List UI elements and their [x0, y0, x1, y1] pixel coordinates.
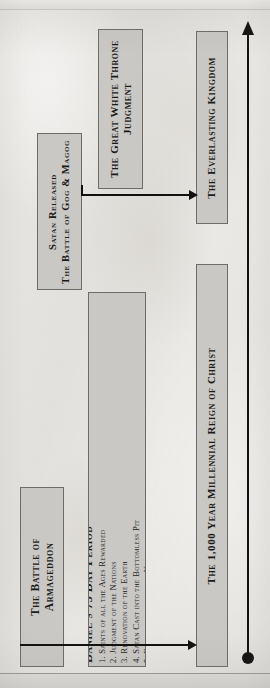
timeline-start-dot-icon — [242, 652, 254, 664]
page-edge-top — [0, 0, 270, 9]
timeline-axis-line — [247, 33, 249, 660]
event-box-satan-released: Satan Released The Battle of Gog & Magog — [37, 133, 82, 290]
event-box-great-white-throne: The Great White Throne Judgment — [98, 29, 143, 189]
event-box-satan-released-text: Satan Released The Battle of Gog & Magog — [47, 139, 73, 283]
page-edge-bottom-rule — [0, 673, 270, 674]
connector-bottom-stub — [20, 644, 22, 646]
great-white-throne-line2: Judgment — [121, 40, 134, 178]
era-bar-everlasting-kingdom-text: The Everlasting Kingdom — [205, 57, 218, 199]
everlasting-label: The Everlasting Kingdom — [205, 57, 218, 199]
connector-middle-stub — [81, 185, 83, 195]
daniel-heading: Daniel's 75 Day Period — [88, 525, 96, 662]
daniel-item-1: 1. Saints of all the Ages Rewarded — [97, 529, 108, 662]
daniel-item-2: 2. Judgment of the Nations — [108, 561, 119, 663]
diagram-canvas: The Battle of Armageddon Daniel's 75 Day… — [0, 0, 270, 688]
daniel-text-stack: Daniel's 75 Day Period 1. Saints of all … — [88, 297, 146, 663]
arrow-right-icon-middle — [189, 190, 198, 200]
arrow-right-icon-bottom — [188, 640, 197, 650]
era-bar-millennial-reign-text: The 1,000 Year Millennial Reign of Chris… — [205, 347, 218, 584]
millennial-label: The 1,000 Year Millennial Reign of Chris… — [205, 347, 218, 584]
connector-bottom-line — [20, 644, 190, 646]
armageddon-line2: Armageddon — [42, 538, 56, 616]
event-box-daniel-75-day-period: Daniel's 75 Day Period 1. Saints of all … — [88, 292, 146, 667]
arrow-up-icon-axis — [242, 21, 254, 35]
satan-released-line1: Satan Released — [47, 139, 60, 283]
era-bar-millennial-reign: The 1,000 Year Millennial Reign of Chris… — [196, 264, 228, 667]
daniel-item-3: 3. Renovation of the Earth — [119, 561, 130, 663]
page-edge-top-rule — [0, 9, 270, 10]
page-edge-bottom-band — [0, 674, 270, 688]
event-box-armageddon: The Battle of Armageddon — [20, 487, 64, 667]
great-white-throne-line1: The Great White Throne — [107, 40, 120, 178]
daniel-item-4: 4. Satan Cast into the Bottomless Pit — [131, 519, 142, 662]
event-box-armageddon-text: The Battle of Armageddon — [28, 538, 56, 616]
connector-middle-line — [81, 194, 191, 196]
satan-released-line2: The Battle of Gog & Magog — [60, 139, 73, 283]
event-box-great-white-throne-text: The Great White Throne Judgment — [107, 40, 134, 178]
era-bar-everlasting-kingdom: The Everlasting Kingdom — [196, 31, 228, 224]
armageddon-line1: The Battle of — [28, 538, 42, 616]
